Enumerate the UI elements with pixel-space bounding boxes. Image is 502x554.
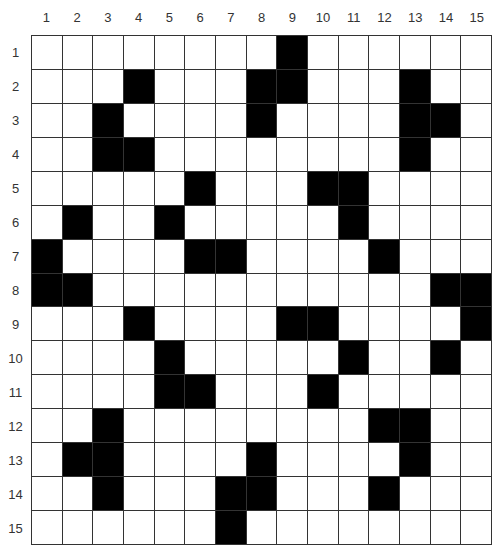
white-cell[interactable] <box>32 70 63 104</box>
white-cell[interactable] <box>308 443 339 477</box>
white-cell[interactable] <box>400 206 431 240</box>
white-cell[interactable] <box>308 104 339 138</box>
white-cell[interactable] <box>216 138 247 172</box>
white-cell[interactable] <box>247 172 278 206</box>
white-cell[interactable] <box>124 104 155 138</box>
white-cell[interactable] <box>431 172 462 206</box>
white-cell[interactable] <box>431 443 462 477</box>
white-cell[interactable] <box>339 240 370 274</box>
white-cell[interactable] <box>247 240 278 274</box>
white-cell[interactable] <box>155 172 186 206</box>
white-cell[interactable] <box>124 477 155 511</box>
white-cell[interactable] <box>63 307 94 341</box>
white-cell[interactable] <box>277 138 308 172</box>
white-cell[interactable] <box>185 206 216 240</box>
white-cell[interactable] <box>155 443 186 477</box>
white-cell[interactable] <box>461 511 492 545</box>
white-cell[interactable] <box>155 477 186 511</box>
white-cell[interactable] <box>277 172 308 206</box>
white-cell[interactable] <box>461 70 492 104</box>
white-cell[interactable] <box>216 70 247 104</box>
white-cell[interactable] <box>185 443 216 477</box>
white-cell[interactable] <box>32 375 63 409</box>
white-cell[interactable] <box>247 274 278 308</box>
white-cell[interactable] <box>32 443 63 477</box>
white-cell[interactable] <box>32 206 63 240</box>
white-cell[interactable] <box>216 206 247 240</box>
white-cell[interactable] <box>308 511 339 545</box>
white-cell[interactable] <box>216 36 247 70</box>
white-cell[interactable] <box>461 206 492 240</box>
white-cell[interactable] <box>124 375 155 409</box>
white-cell[interactable] <box>339 36 370 70</box>
white-cell[interactable] <box>247 511 278 545</box>
white-cell[interactable] <box>32 511 63 545</box>
white-cell[interactable] <box>431 511 462 545</box>
white-cell[interactable] <box>277 409 308 443</box>
white-cell[interactable] <box>339 274 370 308</box>
white-cell[interactable] <box>124 511 155 545</box>
white-cell[interactable] <box>308 70 339 104</box>
white-cell[interactable] <box>124 274 155 308</box>
white-cell[interactable] <box>400 172 431 206</box>
white-cell[interactable] <box>277 206 308 240</box>
white-cell[interactable] <box>63 409 94 443</box>
white-cell[interactable] <box>431 240 462 274</box>
white-cell[interactable] <box>32 36 63 70</box>
white-cell[interactable] <box>339 511 370 545</box>
white-cell[interactable] <box>63 172 94 206</box>
white-cell[interactable] <box>93 375 124 409</box>
white-cell[interactable] <box>93 341 124 375</box>
white-cell[interactable] <box>400 307 431 341</box>
white-cell[interactable] <box>185 70 216 104</box>
white-cell[interactable] <box>155 240 186 274</box>
white-cell[interactable] <box>400 240 431 274</box>
white-cell[interactable] <box>369 375 400 409</box>
white-cell[interactable] <box>369 511 400 545</box>
white-cell[interactable] <box>461 172 492 206</box>
white-cell[interactable] <box>431 206 462 240</box>
white-cell[interactable] <box>339 70 370 104</box>
white-cell[interactable] <box>32 409 63 443</box>
white-cell[interactable] <box>339 443 370 477</box>
white-cell[interactable] <box>63 477 94 511</box>
white-cell[interactable] <box>185 477 216 511</box>
white-cell[interactable] <box>247 307 278 341</box>
white-cell[interactable] <box>461 138 492 172</box>
white-cell[interactable] <box>247 36 278 70</box>
white-cell[interactable] <box>93 206 124 240</box>
white-cell[interactable] <box>216 104 247 138</box>
white-cell[interactable] <box>308 138 339 172</box>
white-cell[interactable] <box>63 375 94 409</box>
white-cell[interactable] <box>32 341 63 375</box>
white-cell[interactable] <box>155 409 186 443</box>
white-cell[interactable] <box>124 240 155 274</box>
white-cell[interactable] <box>63 138 94 172</box>
white-cell[interactable] <box>461 104 492 138</box>
white-cell[interactable] <box>400 477 431 511</box>
white-cell[interactable] <box>155 104 186 138</box>
white-cell[interactable] <box>277 443 308 477</box>
white-cell[interactable] <box>216 375 247 409</box>
white-cell[interactable] <box>339 477 370 511</box>
white-cell[interactable] <box>216 307 247 341</box>
white-cell[interactable] <box>155 36 186 70</box>
white-cell[interactable] <box>185 307 216 341</box>
white-cell[interactable] <box>93 70 124 104</box>
white-cell[interactable] <box>185 138 216 172</box>
white-cell[interactable] <box>216 341 247 375</box>
white-cell[interactable] <box>400 274 431 308</box>
white-cell[interactable] <box>369 70 400 104</box>
white-cell[interactable] <box>93 274 124 308</box>
white-cell[interactable] <box>308 206 339 240</box>
white-cell[interactable] <box>308 36 339 70</box>
white-cell[interactable] <box>185 409 216 443</box>
white-cell[interactable] <box>185 341 216 375</box>
white-cell[interactable] <box>32 104 63 138</box>
white-cell[interactable] <box>369 104 400 138</box>
white-cell[interactable] <box>124 443 155 477</box>
white-cell[interactable] <box>461 341 492 375</box>
white-cell[interactable] <box>32 172 63 206</box>
white-cell[interactable] <box>431 138 462 172</box>
white-cell[interactable] <box>155 511 186 545</box>
